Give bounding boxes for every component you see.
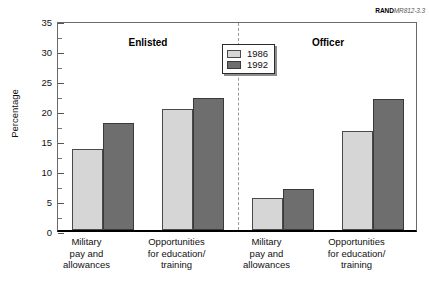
y-tick-label-15: 15 [22, 137, 52, 148]
x-category-label-0: Militarypay andallowances [39, 236, 135, 271]
y-tick-minor-7.5 [58, 188, 62, 189]
x-category-label-2-line3: allowances [219, 259, 315, 271]
y-tick-label-5: 5 [22, 197, 52, 208]
y-tick-minor-22.5 [58, 98, 62, 99]
y-tick-major-35 [58, 23, 64, 24]
bar-1986-cat2[interactable] [252, 198, 283, 230]
y-tick-major-20 [58, 113, 64, 114]
figure-identifier: RANDMR812-3.3 [375, 7, 425, 14]
y-tick-label-10: 10 [22, 167, 52, 178]
panel-title-enlisted: Enlisted [129, 37, 168, 48]
x-category-label-1-line1: Opportunities [129, 236, 225, 248]
y-tick-minor-12.5 [58, 158, 62, 159]
x-category-label-2: Militarypay andallowances [219, 236, 315, 271]
y-tick-minor-27.5 [58, 68, 62, 69]
legend-label-1986: 1986 [247, 48, 268, 59]
legend-entry-1986[interactable]: 1986 [227, 48, 268, 59]
x-category-label-1-line2: for education/ [129, 248, 225, 260]
legend-swatch-1992-icon [227, 61, 241, 69]
bar-1992-cat3[interactable] [373, 99, 404, 230]
x-category-label-3-line3: training [309, 259, 405, 271]
legend-label-1992: 1992 [247, 59, 268, 70]
bar-1992-cat2[interactable] [283, 189, 314, 230]
y-tick-major-5 [58, 203, 64, 204]
y-tick-label-30: 30 [22, 47, 52, 58]
x-category-label-0-line1: Military [39, 236, 135, 248]
bar-1986-cat1[interactable] [162, 109, 193, 230]
y-axis-title: Percentage [9, 74, 20, 154]
y-tick-label-35: 35 [22, 17, 52, 28]
y-tick-label-20: 20 [22, 107, 52, 118]
figure-identifier-number: MR812-3.3 [394, 7, 425, 14]
x-category-label-3-line2: for education/ [309, 248, 405, 260]
y-tick-major-0 [58, 233, 64, 234]
y-tick-major-15 [58, 143, 64, 144]
y-tick-minor-2.5 [58, 218, 62, 219]
x-category-label-3: Opportunitiesfor education/training [309, 236, 405, 271]
bar-1986-cat3[interactable] [342, 131, 373, 230]
y-tick-major-10 [58, 173, 64, 174]
x-category-label-2-line2: pay and [219, 248, 315, 260]
y-tick-major-30 [58, 53, 64, 54]
bar-1992-cat1[interactable] [193, 98, 224, 230]
legend-swatch-1986-icon [227, 50, 241, 58]
y-tick-major-25 [58, 83, 64, 84]
y-tick-label-25: 25 [22, 77, 52, 88]
legend-entry-1992[interactable]: 1992 [227, 59, 268, 70]
bar-1986-cat0[interactable] [72, 149, 103, 230]
x-category-label-1: Opportunitiesfor education/training [129, 236, 225, 271]
x-category-label-2-line1: Military [219, 236, 315, 248]
y-tick-minor-17.5 [58, 128, 62, 129]
panel-title-officer: Officer [312, 37, 344, 48]
x-category-label-3-line1: Opportunities [309, 236, 405, 248]
bar-1992-cat0[interactable] [103, 123, 134, 230]
x-category-label-1-line3: training [129, 259, 225, 271]
y-tick-minor-32.5 [58, 38, 62, 39]
chart-legend: 1986 1992 [222, 44, 275, 74]
x-category-label-0-line2: pay and [39, 248, 135, 260]
figure-identifier-prefix: RAND [375, 7, 393, 14]
x-category-label-0-line3: allowances [39, 259, 135, 271]
